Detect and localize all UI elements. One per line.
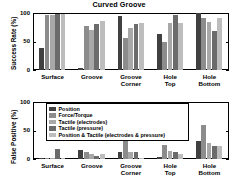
x-category-label: Hole Top — [151, 73, 190, 88]
bar[interactable] — [100, 21, 105, 70]
bar[interactable] — [78, 68, 83, 70]
chart-panel-success-rate: Curved Groove Success Rate (%) 050100 Su… — [0, 0, 238, 94]
y-tick-label: 0 — [14, 156, 30, 162]
y-tick-label: 50 — [14, 127, 30, 133]
chart-legend[interactable]: PositionForce/TorqueTactile (electrodes)… — [46, 103, 189, 141]
x-category-label: Groove — [72, 162, 111, 169]
bar[interactable] — [55, 14, 60, 70]
x-category-label: Groove Corner — [111, 73, 150, 88]
bar[interactable] — [94, 24, 99, 70]
legend-item[interactable]: Force/Torque — [49, 112, 186, 119]
legend-item[interactable]: Position & Tactile (electrodes & pressur… — [49, 132, 186, 139]
x-category-label: Groove Corner — [111, 162, 150, 177]
bar[interactable] — [128, 28, 133, 70]
bar[interactable] — [123, 38, 128, 70]
bar[interactable] — [84, 26, 89, 70]
bar[interactable] — [61, 14, 66, 70]
bar[interactable] — [50, 158, 55, 159]
bar[interactable] — [157, 157, 162, 159]
x-category-label: Groove — [72, 73, 111, 80]
y-tick-label: 0 — [14, 67, 30, 73]
bar[interactable] — [45, 158, 50, 159]
bar[interactable] — [84, 152, 89, 159]
bar[interactable] — [61, 158, 66, 159]
y-tick-mark-right — [226, 159, 229, 160]
legend-item[interactable]: Tactile (pressure) — [49, 125, 186, 132]
y-tick-mark — [33, 159, 36, 160]
legend-item[interactable]: Tactile (electrodes) — [49, 119, 186, 126]
bar[interactable] — [134, 24, 139, 70]
bar[interactable] — [139, 158, 144, 159]
x-category-label: Surface — [33, 73, 72, 80]
y-tick-mark — [33, 70, 36, 71]
legend-swatch — [49, 126, 56, 131]
bar[interactable] — [134, 152, 139, 159]
bar-group — [151, 13, 190, 70]
y-tick-label: 100 — [14, 99, 30, 105]
bar[interactable] — [201, 18, 206, 70]
x-category-label: Hole Top — [151, 162, 190, 177]
x-category-label: Hole Bottom — [190, 162, 229, 177]
bar[interactable] — [212, 31, 217, 70]
bar[interactable] — [128, 152, 133, 159]
legend-swatch — [49, 113, 56, 118]
legend-item[interactable]: Position — [49, 106, 186, 113]
bar-group — [33, 13, 72, 70]
bar[interactable] — [173, 152, 178, 159]
y-tick-label: 100 — [14, 10, 30, 16]
bar[interactable] — [89, 154, 94, 159]
legend-label: Tactile (pressure) — [59, 125, 104, 132]
bar[interactable] — [168, 151, 173, 159]
bar[interactable] — [94, 156, 99, 159]
y-tick-mark-right — [226, 70, 229, 71]
legend-label: Position — [59, 106, 80, 113]
bar[interactable] — [39, 158, 44, 159]
legend-label: Position & Tactile (electrodes & pressur… — [59, 132, 166, 139]
chart-title: Curved Groove — [0, 0, 238, 9]
x-category-label: Hole Bottom — [190, 73, 229, 88]
figure-container: Curved Groove Success Rate (%) 050100 Su… — [0, 0, 238, 187]
bar[interactable] — [118, 16, 123, 70]
bar[interactable] — [50, 15, 55, 70]
bar[interactable] — [45, 15, 50, 70]
legend-swatch — [49, 133, 56, 138]
bar[interactable] — [178, 154, 183, 159]
bar[interactable] — [39, 48, 44, 70]
legend-label: Force/Torque — [59, 112, 93, 119]
legend-label: Tactile (electrodes) — [59, 119, 108, 126]
bar[interactable] — [168, 23, 173, 70]
x-category-label: Surface — [33, 162, 72, 169]
bar-group — [190, 102, 229, 159]
bar[interactable] — [217, 146, 222, 159]
legend-swatch — [49, 107, 56, 112]
bar[interactable] — [212, 146, 217, 159]
bar-group — [190, 13, 229, 70]
bar[interactable] — [196, 13, 201, 70]
y-tick-label: 50 — [14, 38, 30, 44]
bar[interactable] — [178, 23, 183, 70]
chart-panel-false-positive: False Positive (%) 050100 SurfaceGrooveG… — [0, 94, 238, 187]
bar[interactable] — [207, 22, 212, 70]
bar-group — [111, 13, 150, 70]
bar[interactable] — [173, 15, 178, 70]
bar[interactable] — [157, 34, 162, 70]
bar[interactable] — [196, 141, 201, 159]
bar[interactable] — [55, 149, 60, 159]
bar-group — [72, 13, 111, 70]
bar[interactable] — [201, 125, 206, 159]
bar[interactable] — [207, 143, 212, 159]
bar[interactable] — [118, 152, 123, 159]
bar[interactable] — [162, 145, 167, 159]
bar[interactable] — [100, 154, 105, 159]
bar[interactable] — [139, 23, 144, 70]
bar[interactable] — [162, 42, 167, 71]
legend-swatch — [49, 120, 56, 125]
bar[interactable] — [89, 30, 94, 70]
bar[interactable] — [217, 18, 222, 70]
bar[interactable] — [78, 150, 83, 159]
